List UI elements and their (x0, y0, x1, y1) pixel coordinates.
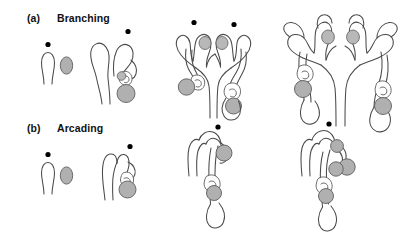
asterisk-dot-marker (215, 124, 220, 129)
panel-branching-stage-4 (278, 8, 410, 134)
gray-blob-top (216, 145, 232, 161)
figure-canvas: (a)Branching (0, 0, 414, 232)
panel-arcading-stage-1 (32, 142, 92, 212)
gray-blob (60, 167, 72, 184)
panel-branching-stage-3 (160, 14, 272, 126)
panel-branching-stage-2 (84, 20, 160, 112)
asterisk-dot-marker-right (231, 22, 236, 27)
asterisk-dot-marker (125, 29, 130, 34)
tube-outline (42, 163, 55, 195)
gray-blob-left (295, 81, 312, 98)
asterisk-dot-marker (45, 152, 50, 157)
gray-blob (117, 85, 135, 103)
gray-blob (119, 181, 136, 198)
gray-blob-crown-right (216, 37, 228, 50)
gray-blob-mid (207, 186, 222, 201)
panel-arcading-stage-3 (176, 120, 262, 230)
coiled-tubule-left (297, 65, 313, 82)
gray-blob-left (178, 79, 194, 95)
panel-branching-stage-1 (32, 32, 92, 102)
tube-outline (42, 53, 55, 85)
asterisk-dot-marker (326, 121, 331, 126)
gray-blob-right (226, 98, 242, 114)
gray-blob-crown-right (347, 30, 360, 44)
gray-blob-right (375, 98, 392, 115)
gray-blob-mid-left (329, 162, 343, 176)
asterisk-dot-marker (45, 42, 50, 47)
row-label-arcading: (b)Arcading (27, 122, 103, 134)
gray-blob-crown-left (322, 30, 335, 44)
coiled-tubule-right (375, 81, 391, 98)
coiled-tubule-right (224, 83, 240, 100)
gray-blob (60, 57, 72, 74)
gray-blob-crown-left (199, 37, 211, 50)
row-tag-b: (b) (27, 122, 49, 134)
gray-blob-small (117, 72, 126, 81)
panel-arcading-stage-2 (92, 138, 162, 212)
asterisk-dot-marker (127, 144, 132, 149)
row-tag-a: (a) (27, 12, 49, 24)
row-name-arcading: Arcading (57, 122, 103, 134)
gray-blob-lower (319, 189, 334, 204)
panel-arcading-stage-4 (292, 118, 388, 232)
gray-blob-upper (331, 140, 344, 153)
asterisk-dot-marker-left (191, 20, 196, 25)
